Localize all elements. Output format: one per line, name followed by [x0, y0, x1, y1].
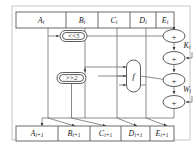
input-register-row: Ai Bi Ci Di Ei: [16, 12, 174, 28]
f-function-block: f: [127, 60, 169, 92]
rotate-right-2-block: >>2: [57, 67, 86, 90]
adder-4-label: +: [171, 98, 176, 108]
rotl5-label: <<5: [67, 32, 80, 39]
sha1-round-diagram: Ai Bi Ci Di Ei: [0, 0, 195, 146]
rotr2-label: >>2: [65, 74, 78, 81]
adder-1-label: +: [171, 32, 176, 42]
adder-chain: + + + +: [163, 30, 185, 113]
constant-inputs: Ki Wi: [183, 41, 192, 102]
adder-2-label: +: [171, 54, 176, 64]
output-crossover-wires: [42, 90, 174, 126]
diagram-canvas: Ai Bi Ci Di Ei: [0, 0, 195, 146]
output-register-row: Ai+1 Bi+1 Ci+1 Di+1 Ei+1: [16, 126, 174, 141]
wire-d-to-eout: [146, 118, 167, 126]
wire-c-to-dout: [117, 118, 137, 126]
wire-adder-to-aout: [42, 112, 174, 126]
rotate-left-5-block: <<5: [48, 31, 168, 42]
adder-3-label: +: [171, 76, 176, 86]
wire-a-to-bout: [48, 118, 75, 126]
wire-rotr2-to-cout: [72, 90, 107, 126]
